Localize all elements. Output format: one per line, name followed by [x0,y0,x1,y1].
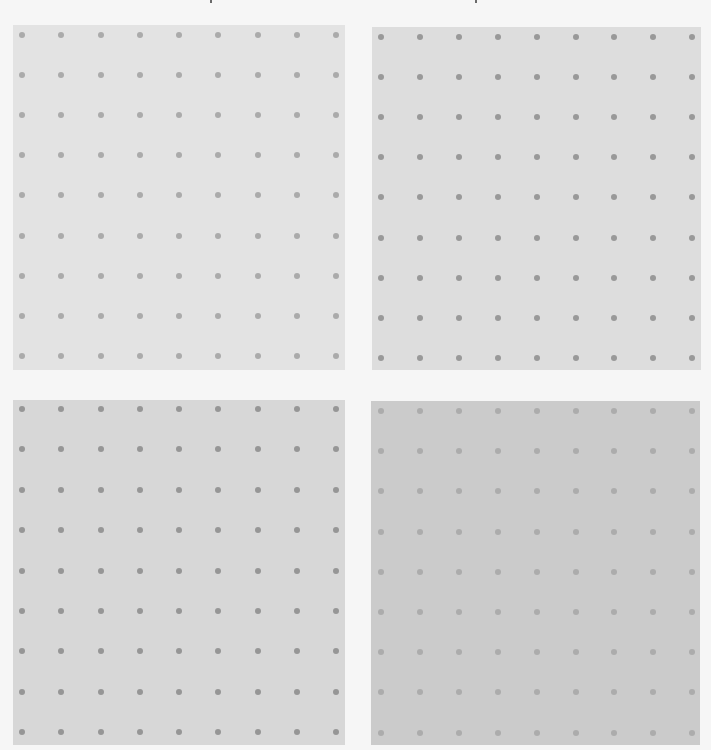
grid-dot [333,648,339,654]
grid-dot [417,355,423,361]
grid-dot [650,649,656,655]
grid-dot [333,313,339,319]
grid-dot [333,152,339,158]
grid-dot [611,154,617,160]
grid-dot [137,568,143,574]
grid-dot [58,192,64,198]
grid-dot [215,729,221,735]
grid-dot [417,74,423,80]
grid-dot [573,488,579,494]
grid-dot [98,729,104,735]
grid-dot [98,353,104,359]
grid-dot [611,529,617,535]
grid-dot [255,487,261,493]
grid-dot [137,313,143,319]
grid-dot [573,315,579,321]
grid-dot [294,192,300,198]
grid-dot [456,730,462,736]
grid-dot [215,487,221,493]
grid-dot [98,527,104,533]
grid-dot [294,729,300,735]
grid-dot [333,112,339,118]
grid-dot [650,34,656,40]
grid-dot [215,72,221,78]
grid-dot [573,609,579,615]
grid-dot [495,609,501,615]
grid-dot [255,527,261,533]
grid-dot [611,649,617,655]
grid-dot [137,112,143,118]
grid-dot [294,112,300,118]
grid-dot [19,729,25,735]
grid-dot [19,273,25,279]
grid-dot [689,488,695,494]
grid-dot [215,648,221,654]
grid-dot [19,527,25,533]
grid-dot [689,448,695,454]
artifact-mark [210,0,212,3]
grid-dot [294,568,300,574]
grid-dot [137,72,143,78]
grid-dot [58,152,64,158]
grid-dot [573,355,579,361]
grid-dot [611,488,617,494]
grid-dot [215,233,221,239]
grid-dot [19,72,25,78]
grid-dot [417,235,423,241]
grid-dot [456,609,462,615]
grid-dot [534,488,540,494]
grid-dot [417,154,423,160]
grid-dot [378,689,384,695]
grid-dot [495,730,501,736]
grid-dot [137,729,143,735]
grid-dot [294,233,300,239]
grid-dot [137,192,143,198]
grid-dot [456,569,462,575]
grid-dot [137,353,143,359]
grid-dot [137,648,143,654]
grid-dot [255,689,261,695]
grid-dot [215,273,221,279]
grid-dot [137,152,143,158]
grid-dot [294,406,300,412]
grid-dot [650,408,656,414]
grid-dot [98,568,104,574]
grid-dot [215,152,221,158]
grid-dot [58,313,64,319]
grid-dot [534,74,540,80]
grid-dot [417,609,423,615]
grid-dot [176,192,182,198]
grid-dot [294,273,300,279]
grid-dot [176,729,182,735]
grid-dot [650,529,656,535]
grid-dot [215,608,221,614]
grid-dot [58,233,64,239]
grid-dot [255,568,261,574]
grid-dot [137,446,143,452]
grid-dot [611,355,617,361]
grid-dot [417,34,423,40]
grid-dot [689,114,695,120]
grid-dot [611,569,617,575]
grid-dot [534,154,540,160]
grid-dot [534,235,540,241]
grid-dot [417,730,423,736]
grid-dot [98,233,104,239]
grid-dot [611,689,617,695]
grid-dot [456,154,462,160]
grid-dot [650,609,656,615]
grid-dot [495,649,501,655]
grid-dot [333,487,339,493]
grid-dot [378,114,384,120]
grid-dot [255,152,261,158]
grid-dot [98,689,104,695]
grid-dot [294,648,300,654]
grid-dot [534,34,540,40]
grid-dot [176,313,182,319]
grid-dot [255,353,261,359]
grid-dot [573,689,579,695]
grid-dot [456,34,462,40]
grid-dot [98,608,104,614]
grid-dot [58,568,64,574]
grid-dot [19,192,25,198]
